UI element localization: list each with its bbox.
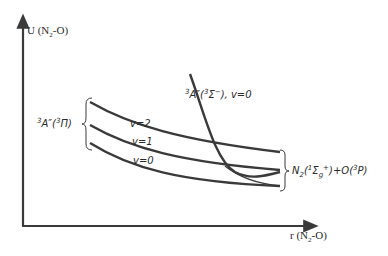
level-label-v1: v=1 xyxy=(132,136,153,147)
level-label-v2: v=2 xyxy=(130,118,151,129)
lower-state-label: 3A″(3Π) xyxy=(37,117,72,129)
y-axis-label: U (N2-O) xyxy=(27,24,68,39)
curve-v2 xyxy=(90,102,280,152)
x-axis-label: r (N2-O) xyxy=(290,229,327,244)
level-label-v0: v=0 xyxy=(133,155,154,166)
right-brace xyxy=(280,150,289,191)
upper-state-label: 3A″(3Σ−), v=0 xyxy=(185,88,252,100)
left-brace xyxy=(82,98,92,150)
asymptote-label: N2(1Σg+)+O(3P) xyxy=(292,164,367,179)
